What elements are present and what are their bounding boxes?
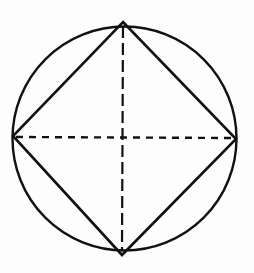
vertical-dashed-diagonal bbox=[122, 26, 123, 250]
inscribed-square-figure bbox=[0, 0, 254, 273]
diagram-canvas bbox=[0, 0, 254, 273]
horizontal-dashed-diagonal bbox=[16, 137, 233, 138]
